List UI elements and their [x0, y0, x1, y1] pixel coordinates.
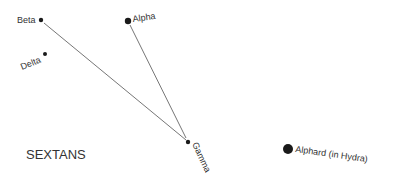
constellation-title: SEXTANS [26, 147, 86, 162]
star-beta [39, 18, 43, 22]
star-alpha [125, 18, 131, 24]
label-gamma: Gamma [190, 141, 213, 174]
star-delta [43, 52, 47, 56]
label-delta: Delta [19, 55, 42, 72]
constellation-diagram: Beta Alpha Delta Gamma Alphard (in Hydra… [0, 0, 394, 186]
star-gamma [186, 140, 190, 144]
label-alpha: Alpha [132, 11, 156, 24]
star-alphard [283, 144, 293, 154]
label-beta: Beta [17, 15, 36, 25]
line-alpha-gamma [130, 25, 186, 138]
label-alphard: Alphard (in Hydra) [295, 144, 369, 164]
line-beta-gamma [44, 23, 186, 140]
